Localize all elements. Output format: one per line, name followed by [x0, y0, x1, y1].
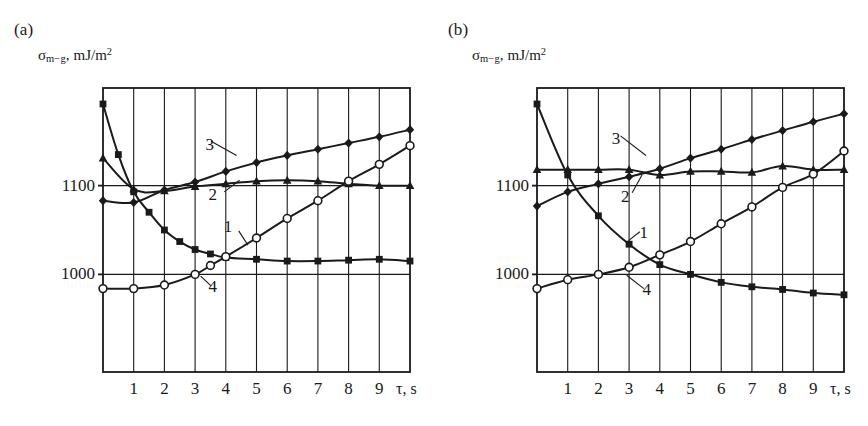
data-point-marker: [406, 142, 414, 150]
data-point-marker: [840, 147, 848, 155]
y-tick-label: 1000: [437, 265, 529, 282]
x-tick-label: 4: [212, 380, 240, 397]
data-point-marker: [748, 135, 756, 144]
data-point-marker: [810, 290, 817, 297]
data-point-marker: [779, 286, 786, 293]
x-tick-label: 6: [707, 380, 735, 397]
data-point-marker: [717, 145, 725, 154]
chart-svg: [434, 0, 868, 426]
curve-label-2: 2: [621, 188, 630, 205]
data-point-marker: [253, 234, 261, 242]
data-point-marker: [533, 285, 541, 293]
data-point-marker: [344, 138, 352, 147]
data-point-marker: [161, 281, 169, 289]
x-tick-label: 5: [677, 380, 705, 397]
data-point-marker: [407, 258, 414, 265]
x-axis-label: τ, s: [396, 381, 417, 397]
data-point-marker: [375, 132, 383, 141]
x-tick-label: 1: [554, 380, 582, 397]
data-point-marker: [375, 160, 383, 168]
data-point-marker: [207, 262, 215, 270]
data-point-marker: [687, 271, 694, 278]
gridlines-vertical: [568, 88, 814, 372]
curve-label-4: 4: [209, 278, 218, 295]
figure-two-panel-chart: (a) σm−g,mJ/m2 10001100123456789τ, s1234…: [0, 0, 868, 426]
data-point-marker: [345, 257, 352, 264]
data-point-marker: [99, 196, 107, 205]
data-point-marker: [594, 179, 602, 188]
data-point-marker: [283, 215, 291, 223]
chart-svg: [0, 0, 434, 426]
data-point-marker: [252, 158, 260, 167]
data-point-marker: [99, 285, 107, 293]
data-point-marker: [564, 187, 572, 196]
data-point-marker: [625, 172, 633, 181]
data-point-marker: [376, 256, 383, 263]
data-point-marker: [749, 283, 756, 290]
curve-label-3: 3: [205, 136, 214, 153]
x-tick-label: 8: [335, 380, 363, 397]
x-tick-label: 6: [273, 380, 301, 397]
data-point-marker: [315, 258, 322, 265]
data-point-marker: [840, 109, 848, 118]
data-point-marker: [626, 241, 633, 248]
data-point-marker: [284, 258, 291, 265]
data-point-marker: [283, 151, 291, 160]
data-point-marker: [314, 145, 322, 154]
data-point-marker: [717, 220, 725, 228]
x-tick-label: 4: [646, 380, 674, 397]
plot-area-b: [434, 0, 868, 426]
data-point-marker: [748, 203, 756, 211]
x-tick-label: 5: [243, 380, 271, 397]
data-point-marker: [253, 256, 260, 263]
data-point-marker: [146, 209, 153, 216]
chart-panel-b: (b) σm−g,mJ/m2 10001100123456789τ, s1234: [434, 0, 868, 426]
data-point-marker: [207, 251, 214, 258]
data-point-marker: [161, 227, 168, 234]
curve-label-1: 1: [224, 218, 233, 235]
curve-label-2: 2: [209, 186, 218, 203]
curve-label-4: 4: [643, 281, 652, 298]
data-point-marker: [656, 261, 663, 268]
data-point-marker: [115, 151, 122, 158]
x-tick-label: 2: [150, 380, 178, 397]
data-point-marker: [192, 246, 199, 253]
data-point-marker: [564, 276, 572, 284]
data-point-marker: [130, 285, 138, 293]
x-tick-label: 9: [365, 380, 393, 397]
x-tick-label: 3: [615, 380, 643, 397]
data-point-marker: [687, 238, 695, 246]
data-point-marker: [809, 117, 817, 126]
data-point-marker: [686, 154, 694, 163]
data-point-marker: [778, 126, 786, 135]
x-tick-label: 3: [181, 380, 209, 397]
x-tick-label: 1: [120, 380, 148, 397]
data-point-marker: [222, 253, 230, 261]
y-tick-label: 1100: [437, 177, 529, 194]
x-tick-label: 7: [304, 380, 332, 397]
data-point-marker: [176, 238, 183, 245]
data-point-marker: [130, 198, 138, 207]
plot-area-a: [0, 0, 434, 426]
x-axis-label: τ, s: [830, 381, 851, 397]
curve-label-3: 3: [612, 130, 621, 147]
data-point-marker: [534, 101, 541, 108]
x-tick-label: 2: [584, 380, 612, 397]
data-point-marker: [533, 201, 541, 210]
data-point-marker: [841, 291, 848, 298]
data-point-marker: [100, 101, 107, 108]
x-tick-label: 9: [799, 380, 827, 397]
data-point-marker: [191, 270, 199, 278]
data-point-marker: [406, 125, 414, 134]
data-point-marker: [779, 184, 787, 192]
data-point-marker: [345, 177, 353, 185]
gridlines-vertical: [134, 88, 380, 372]
x-tick-label: 8: [769, 380, 797, 397]
data-point-marker: [99, 154, 108, 162]
chart-panel-a: (a) σm−g,mJ/m2 10001100123456789τ, s1234: [0, 0, 434, 426]
y-tick-label: 1000: [3, 265, 95, 282]
data-point-marker: [314, 197, 322, 205]
data-point-marker: [809, 170, 817, 178]
data-point-marker: [718, 279, 725, 286]
y-tick-label: 1100: [3, 177, 95, 194]
